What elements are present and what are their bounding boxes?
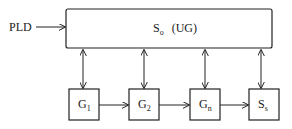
- diagram-canvas: PLD So(UG) G1 G2 Gn Ss: [0, 0, 292, 129]
- box-g1-label: G1: [78, 97, 91, 113]
- box-g2-label: G2: [138, 97, 151, 113]
- top-box-label: So(UG): [153, 21, 197, 37]
- input-label: PLD: [9, 20, 32, 34]
- top-box: [66, 9, 272, 48]
- box-ss-label: Ss: [258, 97, 268, 113]
- box-gn-label: Gn: [199, 97, 212, 113]
